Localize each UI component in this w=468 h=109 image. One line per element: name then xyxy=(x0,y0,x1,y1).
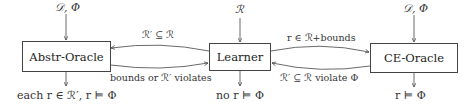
learner-label: Learner xyxy=(217,50,264,64)
abstr-oracle-box: Abstr-Oracle xyxy=(22,41,111,72)
learner-to-ce-label: r ∈ ℛ+bounds xyxy=(287,32,356,43)
ce-oracle-label: CE-Oracle xyxy=(384,51,444,65)
ce-to-learner-arrow xyxy=(272,63,370,69)
abstr-input-label: 𝒟, Φ xyxy=(55,1,80,14)
abstr-oracle-label: Abstr-Oracle xyxy=(29,50,103,64)
abstr-output-label: each r ∈ ℛ′, r ⊨ Φ xyxy=(17,89,116,102)
ce-to-learner-label: ℛ′ ⊆ ℛ violate Φ xyxy=(280,72,358,83)
learner-to-ce-arrow xyxy=(271,46,369,52)
learner-to-abstr-label: ℛ′ ⊆ ℛ xyxy=(142,29,174,40)
abstr-to-learner-arrow xyxy=(111,63,208,68)
learner-input-label: ℛ xyxy=(235,3,244,16)
ce-input-label: 𝒟, Φ xyxy=(403,2,428,15)
learner-to-abstr-arrow xyxy=(111,45,209,51)
ce-oracle-box: CE-Oracle xyxy=(370,43,458,73)
learner-box: Learner xyxy=(209,43,271,71)
ce-output-label: r ⊨ Φ xyxy=(395,89,426,102)
learner-output-label: no r ⊨ Φ xyxy=(216,89,264,102)
abstr-to-learner-label: bounds or ℛ′ violates xyxy=(110,72,212,83)
